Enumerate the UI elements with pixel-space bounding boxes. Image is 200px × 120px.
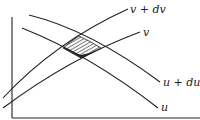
coordinate-mesh-diagram: v + dv v u + du u bbox=[0, 0, 200, 120]
curve-v-plus-dv bbox=[3, 9, 128, 98]
label-v-plus-dv: v + dv bbox=[130, 4, 166, 15]
label-u: u bbox=[161, 102, 168, 113]
area-element-hatched bbox=[63, 36, 101, 58]
label-v: v bbox=[143, 27, 149, 38]
curve-u bbox=[22, 28, 158, 108]
diagram-canvas bbox=[0, 0, 200, 120]
label-u-plus-du: u + du bbox=[163, 77, 200, 88]
